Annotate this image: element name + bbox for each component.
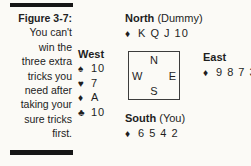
east-diamond-row: ♦ 9 8 7 3 <box>203 66 251 78</box>
west-diamond-cards: A <box>91 91 99 103</box>
south-diamond-row: ♦ 6 5 4 2 <box>125 127 185 139</box>
compass-box: N W E S <box>128 51 180 100</box>
north-header: North (Dummy) <box>125 12 203 24</box>
caption-line: You can't <box>0 25 72 39</box>
caption-bottom-rule <box>10 150 73 155</box>
club-icon: ♣ <box>78 107 91 118</box>
caption-line: win the <box>0 40 72 54</box>
caption-line: sure tricks <box>0 112 72 126</box>
caption-line: taking your <box>0 97 72 111</box>
west-hand: West ♠ 10 ♥ 7 ♦ A ♣ 10 <box>78 48 105 118</box>
north-diamond-row: ♦ K Q J 10 <box>125 27 203 39</box>
north-label: North <box>125 12 154 24</box>
west-diamond-row: ♦ A <box>78 91 105 103</box>
caption-line: first. <box>0 126 72 140</box>
caption-top-rule <box>10 3 73 7</box>
south-hand: South (You) ♦ 6 5 4 2 <box>125 112 185 139</box>
south-diamond-cards: 6 5 4 2 <box>138 127 179 139</box>
west-heart-cards: 7 <box>91 77 98 89</box>
north-hand: North (Dummy) ♦ K Q J 10 <box>125 12 203 39</box>
west-heart-row: ♥ 7 <box>78 77 105 89</box>
south-header: South (You) <box>125 112 185 124</box>
diamond-icon: ♦ <box>78 92 91 103</box>
compass-east-label: E <box>169 70 176 82</box>
compass-north-label: N <box>150 54 158 66</box>
heart-icon: ♥ <box>78 78 91 89</box>
diamond-icon: ♦ <box>125 28 138 39</box>
south-role: (You) <box>159 112 185 124</box>
south-label: South <box>125 112 156 124</box>
west-club-row: ♣ 10 <box>78 106 105 118</box>
east-label: East <box>203 51 251 63</box>
east-hand: East ♦ 9 8 7 3 <box>203 51 251 78</box>
west-spade-cards: 10 <box>91 62 105 74</box>
compass-west-label: W <box>132 70 142 82</box>
compass-south-label: S <box>150 85 157 97</box>
west-club-cards: 10 <box>91 106 105 118</box>
figure-page: Figure 3-7: You can't win the three extr… <box>0 0 251 166</box>
diamond-icon: ♦ <box>203 67 216 78</box>
caption-line: need after <box>0 83 72 97</box>
north-diamond-cards: K Q J 10 <box>138 27 189 39</box>
figure-caption: Figure 3-7: You can't win the three extr… <box>0 11 72 141</box>
west-label: West <box>78 48 105 60</box>
diamond-icon: ♦ <box>125 128 138 139</box>
west-spade-row: ♠ 10 <box>78 62 105 74</box>
spade-icon: ♠ <box>78 63 91 74</box>
east-diamond-cards: 9 8 7 3 <box>216 66 251 78</box>
caption-line: three extra <box>0 54 72 68</box>
caption-line: tricks you <box>0 69 72 83</box>
north-role: (Dummy) <box>157 12 202 24</box>
figure-label: Figure 3-7: <box>0 11 72 25</box>
